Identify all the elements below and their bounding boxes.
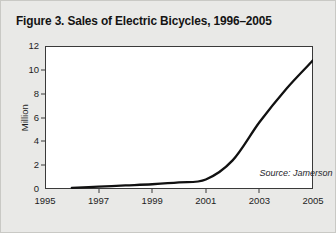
y-tick-label: 6 — [34, 113, 39, 123]
y-tick-mark — [41, 93, 45, 94]
y-tick-mark — [41, 165, 45, 166]
x-tick-mark — [205, 189, 206, 193]
figure-title: Figure 3. Sales of Electric Bicycles, 19… — [16, 14, 309, 28]
x-tick-label: 2003 — [249, 196, 270, 206]
x-tick-label: 1995 — [34, 196, 55, 206]
source-note: Source: Jamerson — [259, 168, 332, 177]
x-tick-label: 2001 — [195, 196, 216, 206]
y-axis-title-label: Million — [19, 104, 29, 131]
x-tick-label: 1997 — [88, 196, 109, 206]
x-tick-mark — [152, 189, 153, 193]
y-tick-mark — [41, 69, 45, 70]
y-tick-label: 12 — [28, 41, 39, 51]
y-tick-label: 0 — [34, 184, 39, 194]
x-tick-mark — [98, 189, 99, 193]
x-tick-label: 1999 — [142, 196, 163, 206]
y-tick-label: 10 — [28, 65, 39, 75]
y-tick-label: 4 — [34, 137, 39, 147]
y-tick-mark — [41, 141, 45, 142]
y-tick-label: 8 — [34, 89, 39, 99]
x-tick-label: 2005 — [302, 196, 323, 206]
figure-container: Figure 3. Sales of Electric Bicycles, 19… — [0, 0, 336, 233]
y-tick-label: 2 — [34, 160, 39, 170]
x-tick-mark — [259, 189, 260, 193]
y-tick-mark — [41, 117, 45, 118]
